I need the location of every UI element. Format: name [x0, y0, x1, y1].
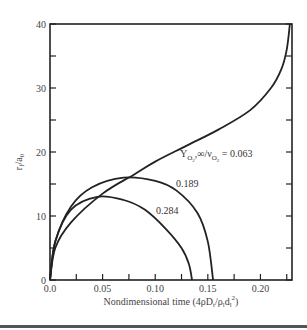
y-tick-label: 30 — [36, 83, 46, 94]
annotation-0189: 0.189 — [176, 178, 199, 189]
annotation-0284: 0.284 — [156, 205, 179, 216]
series-line-0 — [50, 24, 290, 280]
x-tick-label: 0.05 — [94, 283, 112, 294]
x-axis-label: Nondimensional time (4ρDt/ρldl2) — [104, 294, 239, 309]
x-tick-label: 0.10 — [146, 283, 164, 294]
data-series — [50, 24, 290, 280]
plot-frame — [50, 24, 292, 280]
y-axis-label: rf/a0 — [13, 153, 26, 170]
annotation-0063: YO2,∞/νO2 = 0.063 — [180, 148, 252, 163]
y-ticks: 010203040 — [36, 19, 292, 286]
chart: 0.00.050.100.150.20 010203040 rf/a0 Nond… — [0, 0, 307, 330]
bottom-rule — [0, 325, 307, 328]
y-tick-label: 40 — [36, 19, 46, 30]
y-tick-label: 10 — [36, 211, 46, 222]
x-tick-label: 0.15 — [199, 283, 217, 294]
x-tick-label: 0.20 — [252, 283, 270, 294]
y-tick-label: 20 — [36, 147, 46, 158]
x-ticks: 0.00.050.100.150.20 — [44, 274, 287, 294]
y-tick-label: 0 — [41, 275, 46, 286]
